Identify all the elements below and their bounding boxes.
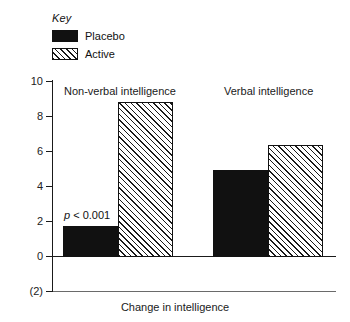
chart-legend: Key Placebo Active <box>52 12 125 64</box>
y-tick-label-4: 4 <box>3 181 43 192</box>
legend-item-placebo: Placebo <box>52 28 125 44</box>
y-tick-label-0: 0 <box>3 251 43 262</box>
legend-swatch-placebo-icon <box>52 30 78 42</box>
bar-non-verbal-active <box>118 102 173 257</box>
chart-bottom-rule <box>52 291 336 292</box>
legend-title: Key <box>52 12 125 24</box>
y-tick-10 <box>46 81 53 82</box>
y-tick-label-2: 2 <box>3 216 43 227</box>
group-label-non-verbal: Non-verbal intelligence <box>64 85 176 97</box>
y-tick-4 <box>46 186 53 187</box>
y-tick-8 <box>46 116 53 117</box>
legend-swatch-active-icon <box>52 48 78 60</box>
y-tick-label-minus-2: (2) <box>3 286 43 297</box>
x-axis-title: Change in intelligence <box>0 301 350 313</box>
y-tick-label-10: 10 <box>3 76 43 87</box>
bar-verbal-placebo <box>213 170 268 257</box>
y-tick-label-8: 8 <box>3 111 43 122</box>
group-label-verbal: Verbal intelligence <box>224 85 313 97</box>
y-tick-0 <box>46 256 53 257</box>
y-tick-6 <box>46 151 53 152</box>
legend-item-active: Active <box>52 46 125 62</box>
bar-chart-figure: Key Placebo Active 10 8 6 4 2 0 (2) Non-… <box>0 0 350 322</box>
y-tick-minus-2 <box>46 291 53 292</box>
legend-label-placebo: Placebo <box>85 30 125 42</box>
p-value-text: < 0.001 <box>70 209 110 221</box>
bar-non-verbal-placebo <box>63 226 118 257</box>
p-value-annotation: p < 0.001 <box>62 208 112 222</box>
bar-verbal-active <box>268 145 323 257</box>
y-tick-label-6: 6 <box>3 146 43 157</box>
y-tick-2 <box>46 221 53 222</box>
legend-label-active: Active <box>85 48 115 60</box>
